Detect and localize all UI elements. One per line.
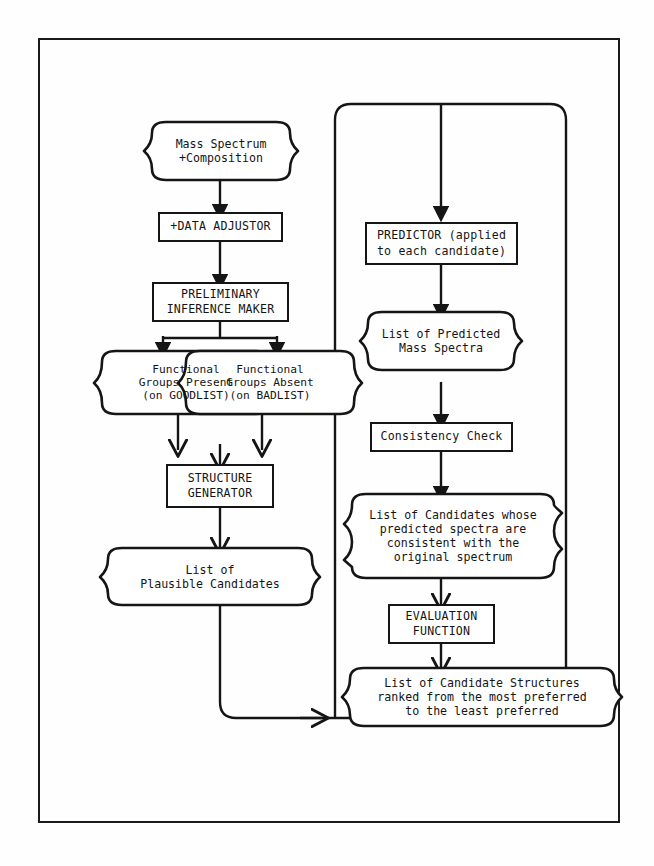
flowchart-page: Mass Spectrum +Composition Functional Gr… — [0, 0, 654, 866]
node-line: PREDICTOR (applied — [377, 228, 506, 243]
node-evaluation-function: EVALUATION FUNCTION — [388, 604, 495, 644]
node-structure-generator: STRUCTURE GENERATOR — [166, 464, 274, 508]
node-line: STRUCTURE — [188, 471, 253, 486]
node-line: GENERATOR — [188, 486, 253, 501]
shape-consistent-candidates — [344, 494, 562, 578]
shape-ranked-structures — [342, 668, 622, 726]
shape-plausible-candidates — [100, 548, 320, 605]
node-line: Consistency Check — [380, 429, 502, 444]
node-consistency-check: Consistency Check — [370, 422, 513, 452]
node-line: PRELIMINARY — [181, 287, 260, 302]
node-line: +DATA ADJUSTOR — [170, 219, 271, 234]
node-line: INFERENCE MAKER — [167, 302, 275, 317]
node-line: EVALUATION — [406, 609, 478, 624]
flowchart-connectors-layer — [0, 0, 654, 866]
node-line: to each candidate) — [377, 244, 506, 259]
node-line: FUNCTION — [413, 624, 470, 639]
shape-predicted-spectra — [360, 312, 522, 370]
shape-groups-absent — [178, 351, 362, 414]
node-predictor: PREDICTOR (applied to each candidate) — [365, 222, 518, 265]
node-preliminary-inference-maker: PRELIMINARY INFERENCE MAKER — [152, 282, 289, 322]
node-data-adjustor: +DATA ADJUSTOR — [158, 212, 283, 242]
shape-mass-spectrum — [144, 122, 298, 180]
